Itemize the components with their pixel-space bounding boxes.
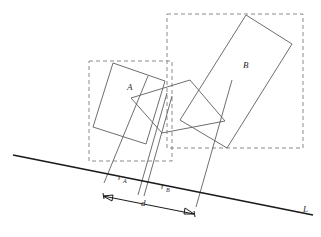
- inner-contact-polygon: [131, 80, 225, 133]
- label-radius-b-subscript: B: [166, 187, 170, 193]
- projection-line-a-right: [138, 93, 167, 195]
- diagram-canvas: A B r A r B d L: [0, 0, 321, 237]
- rectangle-a: [93, 63, 165, 144]
- label-shape-b: B: [243, 60, 249, 70]
- distance-dimension-line: [103, 196, 194, 214]
- label-radius-a-base: r: [118, 172, 122, 182]
- distance-tick-right: [194, 211, 195, 217]
- bounding-box-a: [89, 61, 172, 161]
- distance-tick-left: [103, 193, 104, 199]
- label-radius-b: r B: [161, 181, 170, 193]
- label-radius-a: r A: [118, 172, 127, 184]
- distance-dimension-group: [103, 193, 195, 217]
- label-shape-a: A: [126, 82, 133, 92]
- label-axis-l: L: [302, 204, 308, 214]
- label-radius-b-base: r: [161, 181, 165, 191]
- geometry-figure: A B r A r B d L: [0, 0, 321, 237]
- projection-line-b-right: [196, 80, 232, 207]
- projection-line-a-left: [104, 76, 148, 183]
- projection-line-b-left: [144, 96, 172, 196]
- rectangle-b: [180, 15, 292, 148]
- label-distance-d: d: [141, 198, 146, 208]
- label-radius-a-subscript: A: [122, 178, 127, 184]
